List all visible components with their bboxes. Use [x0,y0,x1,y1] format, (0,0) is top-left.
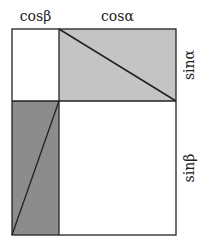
label-sin-beta: sinβ [181,154,197,183]
label-cos-alpha: cosα [101,8,134,24]
region-bottom-right [59,101,176,235]
region-top-left [12,29,59,101]
label-sin-alpha: sinα [181,49,197,80]
trig-diagram: cosβ cosα sinα sinβ [0,0,207,246]
label-cos-beta: cosβ [20,8,52,24]
